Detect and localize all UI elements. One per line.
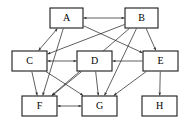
- node-label-g: G: [96, 100, 103, 111]
- graph-canvas: ABCDEFGH: [0, 0, 193, 132]
- node-e[interactable]: E: [143, 51, 178, 71]
- edge-a-c: [39, 29, 58, 51]
- node-h[interactable]: H: [142, 96, 177, 116]
- edge-c-f: [32, 72, 37, 96]
- node-label-e: E: [157, 55, 163, 66]
- node-d[interactable]: D: [77, 51, 112, 71]
- node-label-b: B: [138, 12, 145, 23]
- node-label-a: A: [63, 12, 71, 23]
- node-label-f: F: [37, 100, 43, 111]
- node-b[interactable]: B: [125, 8, 158, 28]
- edge-b-e: [146, 29, 156, 51]
- node-f[interactable]: F: [22, 96, 57, 116]
- edge-e-h: [160, 72, 161, 96]
- node-c[interactable]: C: [12, 51, 47, 71]
- edge-a-e: [84, 26, 143, 53]
- edge-e-g: [114, 72, 146, 96]
- node-label-d: D: [91, 55, 98, 66]
- node-label-h: H: [156, 100, 163, 111]
- edge-d-g: [96, 72, 99, 96]
- node-g[interactable]: G: [82, 96, 117, 116]
- node-label-c: C: [26, 55, 33, 66]
- node-a[interactable]: A: [50, 8, 83, 28]
- graph-diagram: ABCDEFGH: [0, 0, 193, 132]
- node-layer: ABCDEFGH: [12, 8, 178, 116]
